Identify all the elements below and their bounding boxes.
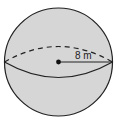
radius-label: 8 m (75, 50, 92, 61)
center-point (56, 60, 61, 65)
sphere-diagram: 8 m (0, 0, 119, 122)
